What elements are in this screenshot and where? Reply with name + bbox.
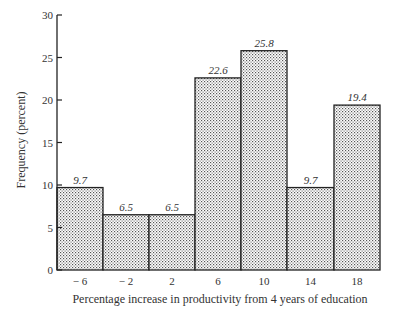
y-tick-label: 10 [42,179,54,191]
bars-group [57,51,380,270]
bar [57,188,103,270]
bar [334,105,380,270]
x-tick-label: 14 [305,275,317,287]
bar-value-label: 22.6 [208,64,228,76]
y-tick-label: 0 [48,264,54,276]
bar-value-label: 25.8 [254,37,274,49]
y-tick-label: 15 [42,137,54,149]
x-tick-label: 6 [215,275,221,287]
bar [103,215,149,270]
y-tick-label: 25 [42,52,54,64]
y-tick-label: 30 [42,9,54,21]
histogram-chart: 9.76.56.522.625.89.719.4 051015202530 − … [0,0,402,316]
x-tick-label: 2 [169,275,175,287]
x-tick-label: − 2 [119,275,133,287]
y-tick-label: 20 [42,94,54,106]
bar [195,78,241,270]
bar-value-label: 6.5 [119,201,133,213]
y-tick-label: 5 [48,222,54,234]
bar [241,51,287,270]
bar-value-label: 19.4 [347,91,367,103]
bar [287,188,334,270]
x-axis-tick-labels: − 6− 226101418 [73,275,363,287]
x-tick-label: − 6 [73,275,88,287]
y-axis-title: Frequency (percent) [14,92,28,189]
bar-value-label: 6.5 [165,201,179,213]
bar-value-label: 9.7 [304,174,318,186]
x-axis-title: Percentage increase in productivity from… [72,292,367,306]
bar-value-label: 9.7 [73,174,87,186]
bar [149,215,195,270]
x-tick-label: 10 [259,275,271,287]
x-tick-label: 18 [352,275,364,287]
